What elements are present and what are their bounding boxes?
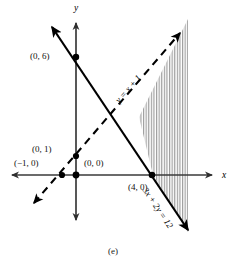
x-axis-label: x	[222, 171, 226, 181]
coordinate-plane	[0, 0, 234, 267]
figure-caption: (e)	[108, 247, 118, 256]
y-axis-label: y	[74, 4, 78, 14]
point-neg1-0	[59, 172, 65, 178]
label-point-0-0: (0, 0)	[84, 159, 104, 168]
label-point-neg1-0: (−1, 0)	[14, 159, 39, 168]
point-0-0	[73, 172, 80, 179]
point-0-1	[73, 153, 79, 159]
point-0-6	[73, 54, 79, 60]
point-4-0	[149, 172, 156, 179]
label-point-0-6: (0, 6)	[30, 52, 50, 61]
label-point-0-1: (0, 1)	[32, 145, 52, 154]
graph-figure: y x (0, 6) (0, 1) (0, 0) (−1, 0) (4, 0) …	[0, 0, 234, 267]
